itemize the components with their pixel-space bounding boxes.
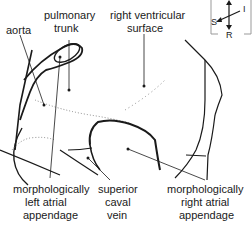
- pulmonary-trunk-outline: [20, 44, 82, 120]
- label-left-atrial-3: appendage: [23, 209, 78, 222]
- label-svc-3: vein: [107, 209, 127, 222]
- label-svc-1: superior: [98, 183, 138, 196]
- leader-aorta: [20, 35, 44, 105]
- compass-label-r: R: [226, 30, 233, 40]
- label-pulmonary-trunk-2: trunk: [54, 22, 78, 35]
- label-svc-2: caval: [105, 196, 131, 209]
- compass-label-s: S: [211, 17, 217, 27]
- label-right-atrial-2: right atrial: [181, 196, 229, 209]
- label-right-ventricular-2: surface: [127, 22, 163, 35]
- stipple-region: [12, 137, 55, 150]
- leader-superior-caval-vein: [88, 158, 110, 180]
- label-left-atrial-1: morphologically: [13, 183, 89, 196]
- label-pulmonary-trunk-1: pulmonary: [44, 9, 95, 22]
- label-aorta: aorta: [6, 24, 31, 37]
- left-atrial-appendage-tip: [51, 40, 82, 66]
- aorta-outline: [15, 50, 32, 150]
- right-atrial-appendage-outline: [90, 120, 160, 170]
- leader-left-atrial-appendage: [50, 57, 60, 178]
- label-left-atrial-2: left atrial: [25, 196, 67, 209]
- label-right-ventricular-1: right ventricular: [110, 9, 185, 22]
- right-border-inner: [175, 60, 205, 178]
- label-right-atrial-3: appendage: [179, 209, 234, 222]
- label-right-atrial-1: morphologically: [167, 183, 243, 196]
- compass-label-i: I: [243, 4, 246, 14]
- right-border-outer: [185, 40, 222, 115]
